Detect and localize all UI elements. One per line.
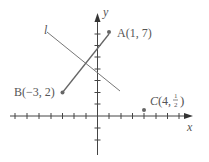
x-axis-label: x: [186, 120, 193, 134]
point-A: [107, 30, 111, 34]
y-axis-label: y: [102, 5, 109, 19]
x-axis: [10, 113, 188, 119]
point-B: [61, 91, 65, 95]
svg-text:2: 2: [174, 101, 178, 109]
point-C-label: C ( 4, 1 2 ): [150, 92, 184, 109]
y-axis: [95, 18, 101, 155]
line-l-label: l: [44, 23, 48, 37]
point-A-label: A(1, 7): [117, 26, 152, 40]
x-arrow-icon: [184, 113, 193, 119]
svg-text:1: 1: [174, 92, 178, 100]
segment-AB: [63, 34, 110, 93]
svg-text:): ): [180, 93, 184, 108]
point-B-label: B(−3, 2): [14, 85, 55, 99]
svg-text:4,: 4,: [162, 94, 171, 108]
point-C: [142, 108, 146, 112]
line-l: [47, 32, 120, 91]
coordinate-diagram: y x l A(1, 7) B(−3, 2) C ( 4, 1 2 ): [0, 0, 209, 162]
y-arrow-icon: [95, 13, 101, 22]
